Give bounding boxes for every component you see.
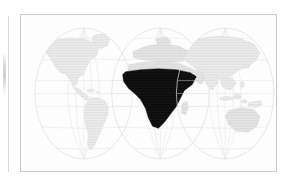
world-map-canvas bbox=[21, 15, 276, 171]
world-map-svg bbox=[21, 15, 276, 171]
scan-edge-line-artifact bbox=[8, 16, 9, 172]
map-figure-frame: Interrupted world map with Africa highli… bbox=[20, 14, 277, 172]
figure-page: Interrupted world map with Africa highli… bbox=[0, 0, 293, 189]
scan-smudge-artifact bbox=[3, 52, 6, 96]
